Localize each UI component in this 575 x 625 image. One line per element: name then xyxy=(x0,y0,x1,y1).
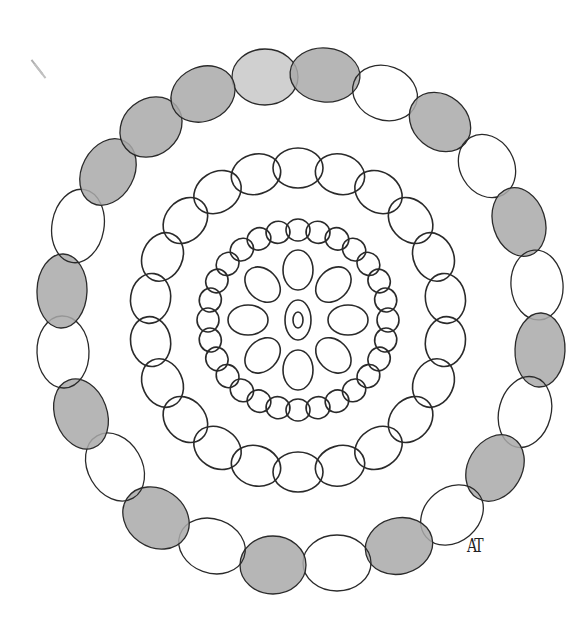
middle-oval xyxy=(405,352,462,414)
petal xyxy=(228,305,268,335)
inner-oval xyxy=(338,234,370,266)
outer-oval xyxy=(303,535,371,591)
middle-oval xyxy=(347,418,411,479)
center-oval xyxy=(285,300,311,340)
petal xyxy=(238,331,287,380)
middle-oval xyxy=(405,226,462,288)
petal xyxy=(283,250,313,290)
middle-oval xyxy=(379,189,442,253)
middle-oval-ring xyxy=(127,148,469,492)
petal xyxy=(309,331,358,380)
inner-oval xyxy=(226,374,258,406)
petal xyxy=(283,350,313,390)
middle-oval xyxy=(134,226,191,288)
outer-oval-shaded xyxy=(359,510,439,582)
center-oval-inner xyxy=(293,312,303,328)
outer-oval-ring xyxy=(36,45,567,594)
outer-oval-shaded xyxy=(288,45,362,105)
outer-oval-shaded xyxy=(514,312,567,388)
middle-oval xyxy=(154,189,217,253)
petal xyxy=(328,305,368,335)
outer-oval-shaded xyxy=(454,424,536,512)
outer-oval-shaded xyxy=(240,536,306,594)
middle-oval xyxy=(379,388,442,452)
middle-oval xyxy=(134,352,191,414)
middle-oval xyxy=(186,162,250,223)
mandala-drawing xyxy=(0,0,575,625)
center-oval-outer xyxy=(285,300,311,340)
outer-oval-shaded xyxy=(397,80,482,164)
inner-oval xyxy=(212,248,244,280)
petal xyxy=(309,260,358,309)
outer-oval-shaded xyxy=(44,371,117,456)
outer-oval-shaded xyxy=(36,253,89,329)
outer-oval-shaded xyxy=(232,49,298,105)
middle-oval xyxy=(154,388,217,452)
outer-oval xyxy=(508,248,566,322)
middle-oval xyxy=(186,418,250,479)
petal xyxy=(238,260,287,309)
outer-oval-shaded xyxy=(483,181,554,264)
middle-oval xyxy=(347,162,411,223)
flower-petals xyxy=(228,250,368,390)
outer-oval-shaded xyxy=(111,474,202,562)
artist-signature: AT xyxy=(467,536,482,557)
inner-oval xyxy=(352,360,384,392)
